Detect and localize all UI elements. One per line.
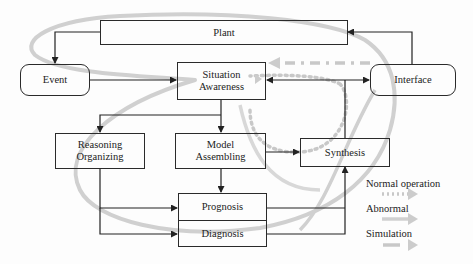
node-interface-label: Interface: [394, 74, 431, 86]
node-model-assembling: Model Assembling: [175, 133, 266, 169]
node-sa-line1: Situation: [203, 69, 241, 81]
node-reasoning-line1: Reasoning: [78, 139, 122, 151]
node-event: Event: [20, 64, 90, 96]
node-model-line2: Assembling: [195, 151, 245, 163]
node-prognosis: Prognosis: [178, 193, 267, 221]
legend-arrows: [382, 188, 418, 251]
node-prognosis-label: Prognosis: [202, 201, 243, 213]
legend-abnormal-label: Abnormal: [366, 203, 409, 214]
node-synthesis-label: Synthesis: [325, 147, 365, 159]
node-plant: Plant: [100, 20, 348, 45]
node-diagnosis-label: Diagnosis: [202, 228, 244, 240]
node-diagnosis: Diagnosis: [178, 220, 267, 247]
node-synthesis: Synthesis: [300, 138, 390, 167]
node-event-label: Event: [43, 74, 68, 86]
edge-plant-event: [55, 32, 100, 63]
edge-diagnosis-synthesis: [266, 167, 345, 234]
node-sa-line2: Awareness: [199, 81, 244, 93]
legend-simulation-label: Simulation: [366, 228, 412, 239]
node-situation-awareness: Situation Awareness: [177, 62, 266, 100]
node-reasoning-organizing: Reasoning Organizing: [55, 133, 145, 169]
legend-normal-label: Normal operation: [366, 178, 440, 189]
edge-reasoning-prognosis: [100, 168, 177, 208]
edge-reasoning-diagnosis: [100, 208, 177, 234]
workflow-diagram: Plant Event Situation Awareness Interfac…: [0, 0, 473, 264]
node-interface: Interface: [370, 64, 456, 96]
edge-sa-reasoning: [100, 115, 221, 132]
node-plant-label: Plant: [213, 27, 235, 39]
node-reasoning-line2: Organizing: [76, 151, 123, 163]
edge-interface-plant: [348, 32, 412, 64]
node-model-line1: Model: [207, 139, 234, 151]
